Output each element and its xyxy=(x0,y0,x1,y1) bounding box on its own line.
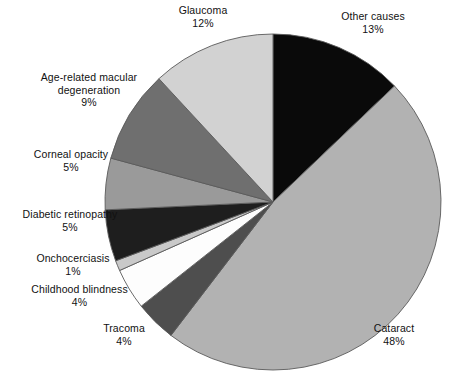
pie-label-diabetic-retinopathy-value: 5% xyxy=(0,221,140,234)
pie-label-childhood-blindness-name: Childhood blindness xyxy=(12,283,147,296)
pie-label-age-related-macular-degeneration: Age-related macular degeneration 9% xyxy=(22,71,156,109)
pie-label-cataract: Cataract 48% xyxy=(344,322,444,347)
pie-label-onchocerciasis: Onchocerciasis 1% xyxy=(8,252,138,277)
pie-chart-figure: Glaucoma 12% Other causes 13% Age-relate… xyxy=(0,0,451,380)
pie-label-trachoma: Tracoma 4% xyxy=(74,322,174,347)
pie-label-amd-name-line1: Age-related macular xyxy=(22,71,156,84)
pie-label-glaucoma-value: 12% xyxy=(148,17,258,30)
pie-label-corneal-opacity: Corneal opacity 5% xyxy=(6,148,136,173)
pie-label-amd-value: 9% xyxy=(22,96,156,109)
pie-label-cataract-name: Cataract xyxy=(344,322,444,335)
pie-label-trachoma-name: Tracoma xyxy=(74,322,174,335)
pie-label-onchocerciasis-value: 1% xyxy=(8,265,138,278)
pie-label-cataract-value: 48% xyxy=(344,335,444,348)
pie-label-trachoma-value: 4% xyxy=(74,335,174,348)
pie-label-diabetic-retinopathy-name: Diabetic retinopathy xyxy=(0,208,140,221)
pie-label-amd-name-line2: degeneration xyxy=(22,84,156,97)
pie-label-glaucoma-name: Glaucoma xyxy=(148,4,258,17)
pie-label-other-causes: Other causes 13% xyxy=(318,10,428,35)
pie-label-corneal-opacity-value: 5% xyxy=(6,161,136,174)
pie-label-glaucoma: Glaucoma 12% xyxy=(148,4,258,29)
pie-label-other-causes-name: Other causes xyxy=(318,10,428,23)
pie-label-childhood-blindness: Childhood blindness 4% xyxy=(12,283,147,308)
pie-label-other-causes-value: 13% xyxy=(318,23,428,36)
pie-label-childhood-blindness-value: 4% xyxy=(12,296,147,309)
pie-label-corneal-opacity-name: Corneal opacity xyxy=(6,148,136,161)
pie-label-diabetic-retinopathy: Diabetic retinopathy 5% xyxy=(0,208,140,233)
pie-label-onchocerciasis-name: Onchocerciasis xyxy=(8,252,138,265)
